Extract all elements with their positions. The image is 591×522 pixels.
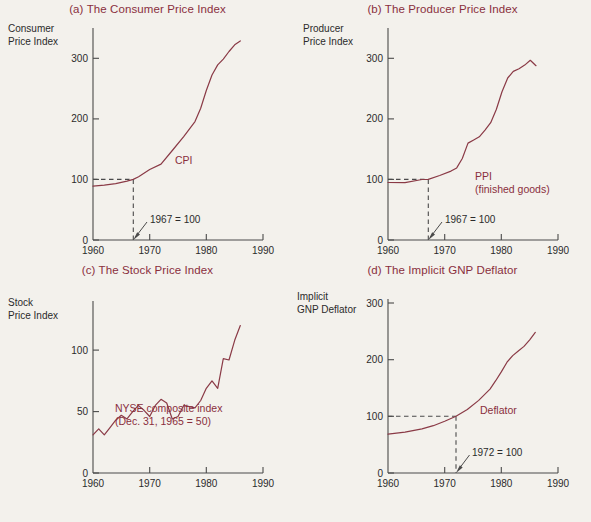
y-tick-label-100: 100 [366, 174, 383, 185]
x-tick-label-1960: 1960 [82, 478, 105, 489]
x-tick-label-1970: 1970 [434, 245, 457, 256]
y-tick-label-50: 50 [77, 406, 89, 417]
x-tick-label-1960: 1960 [377, 478, 400, 489]
chart-svg-ppi: 0 100 200 300 1960 1970 1980 1990 1967 =… [295, 0, 590, 261]
chart-panel-cpi: (a) The Consumer Price Index Consumer Pr… [0, 0, 295, 261]
data-curve-cpi [93, 41, 240, 186]
chart-svg-cpi: 0 100 200 300 1960 1970 1980 1990 1967 =… [0, 0, 295, 261]
chart-panel-ppi: (b) The Producer Price Index Producer Pr… [295, 0, 590, 261]
x-tick-label-1980: 1980 [195, 245, 218, 256]
x-tick-label-1990: 1990 [252, 478, 275, 489]
chart-panel-deflator: (d) The Implicit GNP Deflator Implicit G… [295, 261, 590, 522]
x-tick-label-1980: 1980 [490, 478, 513, 489]
chart-svg-deflator: 0 100 200 300 1960 1970 1980 1990 1972 =… [295, 261, 590, 522]
annotation-arrow-head [456, 465, 463, 473]
x-tick-label-1990: 1990 [547, 478, 570, 489]
x-tick-label-1970: 1970 [139, 478, 162, 489]
y-tick-label-0: 0 [377, 235, 383, 246]
data-curve-deflator [388, 332, 535, 434]
chart-panel-stock: (c) The Stock Price Index Stock Price In… [0, 261, 295, 522]
annotation-base-year: 1967 = 100 [150, 214, 201, 225]
series-label-nyse-line2: (Dec. 31, 1965 = 50) [115, 415, 211, 427]
y-tick-label-100: 100 [71, 174, 88, 185]
x-tick-label-1960: 1960 [82, 245, 105, 256]
y-tick-label-0: 0 [82, 468, 88, 479]
series-label-nyse-line1: NYSE composite index [115, 402, 223, 414]
y-tick-label-200: 200 [366, 113, 383, 124]
series-label-deflator: Deflator [480, 404, 517, 416]
y-tick-label-200: 200 [71, 113, 88, 124]
y-tick-label-300: 300 [366, 53, 383, 64]
y-tick-label-0: 0 [82, 235, 88, 246]
annotation-arrow-head [428, 232, 435, 240]
y-tick-label-200: 200 [366, 354, 383, 365]
data-curve-ppi [388, 60, 536, 182]
x-tick-label-1980: 1980 [490, 245, 513, 256]
series-label-ppi-line2: (finished goods) [475, 183, 550, 195]
y-tick-label-300: 300 [71, 53, 88, 64]
y-tick-label-300: 300 [366, 298, 383, 309]
x-tick-label-1990: 1990 [547, 245, 570, 256]
chart-svg-stock: 0 50 100 1960 1970 1980 1990 NYSE compos… [0, 261, 295, 522]
x-tick-label-1980: 1980 [195, 478, 218, 489]
x-tick-label-1990: 1990 [252, 245, 275, 256]
x-tick-label-1970: 1970 [434, 478, 457, 489]
y-tick-label-100: 100 [71, 345, 88, 356]
x-tick-label-1970: 1970 [139, 245, 162, 256]
annotation-base-year: 1972 = 100 [472, 447, 523, 458]
series-label-ppi-line1: PPI [475, 170, 492, 182]
y-tick-label-100: 100 [366, 411, 383, 422]
x-tick-label-1960: 1960 [377, 245, 400, 256]
y-tick-label-0: 0 [377, 468, 383, 479]
annotation-base-year: 1967 = 100 [445, 214, 496, 225]
series-label-cpi: CPI [175, 154, 193, 166]
annotation-arrow-head [133, 232, 140, 240]
figure-container: (a) The Consumer Price Index Consumer Pr… [0, 0, 591, 522]
